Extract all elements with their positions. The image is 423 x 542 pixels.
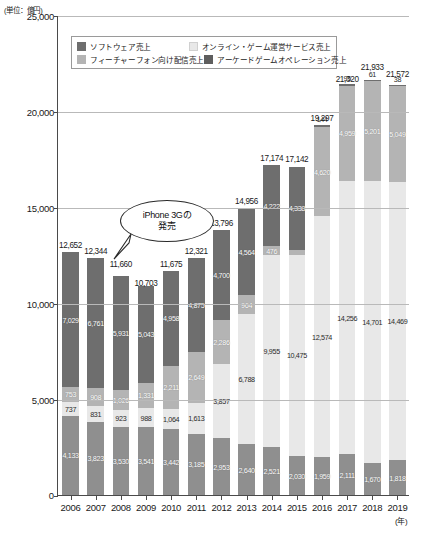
bar-segment-arcade[interactable] xyxy=(238,444,255,495)
y-gridline xyxy=(58,304,409,305)
legend-item-software: ソフトウェア売上 xyxy=(77,41,189,52)
bar-segment-software[interactable] xyxy=(188,258,205,352)
x-tick-mark xyxy=(96,495,97,500)
bar-segment-software[interactable] xyxy=(314,125,331,128)
bar-segment-online[interactable] xyxy=(87,406,104,422)
bar-segment-software[interactable] xyxy=(263,165,280,246)
bar-segment-feature[interactable] xyxy=(263,246,280,255)
bar-segment-feature[interactable] xyxy=(364,81,381,181)
bar-segment-feature[interactable] xyxy=(314,127,331,216)
bar-total-label: 12,652 xyxy=(59,241,82,250)
bar-total-label: 21,933 xyxy=(361,63,384,72)
bar-segment-online[interactable] xyxy=(289,255,306,456)
callout-tail-icon xyxy=(112,232,132,260)
bar-segment-feature[interactable] xyxy=(87,388,104,405)
bar-segment-feature[interactable] xyxy=(163,366,180,408)
bar-segment-feature[interactable] xyxy=(188,352,205,403)
bar-total-label: 10,703 xyxy=(135,279,158,288)
bar-segment-arcade[interactable] xyxy=(389,460,406,495)
y-gridline xyxy=(58,400,409,401)
x-tick-mark xyxy=(121,495,122,500)
bar-segment-arcade[interactable] xyxy=(339,454,356,495)
bar-segment-software[interactable] xyxy=(238,208,255,296)
bar-total-label: 19,297 xyxy=(311,114,334,123)
bar-segment-software[interactable] xyxy=(364,80,381,81)
bar-segment-arcade[interactable] xyxy=(188,434,205,495)
bar-column[interactable]: 1,81814,4695,04938 xyxy=(389,81,406,495)
callout-line-2: 発売 xyxy=(143,221,192,232)
bar-column[interactable]: 2,11114,2564,95995 xyxy=(339,86,356,495)
bar-segment-online[interactable] xyxy=(364,181,381,463)
x-tick-label-2008: 2008 xyxy=(111,502,131,513)
bar-segment-software[interactable] xyxy=(138,286,155,383)
bar-segment-arcade[interactable] xyxy=(62,416,79,495)
bar-segment-online[interactable] xyxy=(188,403,205,434)
bar-segment-arcade[interactable] xyxy=(213,438,230,495)
bar-segment-online[interactable] xyxy=(263,255,280,446)
y-tick-label: 10,000 xyxy=(27,299,54,310)
bar-segment-arcade[interactable] xyxy=(314,457,331,495)
bar-segment-online[interactable] xyxy=(113,410,130,428)
x-tick-mark xyxy=(247,495,248,500)
bar-segment-arcade[interactable] xyxy=(263,447,280,495)
bar-column[interactable]: 3,8238319086,761 xyxy=(87,258,104,495)
x-tick-mark xyxy=(71,495,72,500)
bar-segment-online[interactable] xyxy=(314,216,331,457)
bar-segment-arcade[interactable] xyxy=(289,456,306,495)
bar-segment-software[interactable] xyxy=(339,84,356,86)
x-tick-mark xyxy=(322,495,323,500)
bar-column[interactable]: 2,9533,8572,2864,700 xyxy=(213,230,230,495)
legend-swatch-icon xyxy=(189,42,198,51)
chart-root: (単位：億円) 4,1337377537,02912,6523,82383190… xyxy=(0,0,423,542)
bar-segment-software[interactable] xyxy=(62,252,79,387)
legend-label: オンライン・ゲーム運営サービス売上 xyxy=(202,41,331,52)
bar-total-label: 21,320 xyxy=(336,75,359,84)
bar-segment-arcade[interactable] xyxy=(163,429,180,495)
callout-bubble: iPhone 3Gの 発売 xyxy=(120,200,214,242)
bar-segment-feature[interactable] xyxy=(138,383,155,409)
bar-segment-online[interactable] xyxy=(163,409,180,429)
bar-column[interactable]: 2,6406,7889644,564 xyxy=(238,208,255,495)
bar-segment-arcade[interactable] xyxy=(138,427,155,495)
bar-segment-feature[interactable] xyxy=(289,250,306,255)
bar-column[interactable]: 2,5219,9554764,222 xyxy=(263,165,280,495)
bar-segment-online[interactable] xyxy=(138,408,155,427)
legend-swatch-icon xyxy=(77,55,86,64)
bar-column[interactable]: 1,67014,7015,20161 xyxy=(364,74,381,495)
x-tick-mark xyxy=(171,495,172,500)
x-axis-unit-label: (年) xyxy=(395,515,407,526)
bar-segment-feature[interactable] xyxy=(213,320,230,364)
bar-segment-arcade[interactable] xyxy=(113,427,130,495)
bar-segment-software[interactable] xyxy=(113,276,130,390)
bar-total-label: 17,174 xyxy=(260,154,283,163)
x-tick-label-2006: 2006 xyxy=(61,502,81,513)
bar-column[interactable]: 4,1337377537,029 xyxy=(62,252,79,495)
bar-segment-arcade[interactable] xyxy=(87,422,104,495)
y-tick-mark xyxy=(54,208,58,209)
legend-item-arcade: アーケードゲームオペレーション売上 xyxy=(204,54,346,65)
bar-total-label: 11,675 xyxy=(160,260,182,269)
bar-segment-online[interactable] xyxy=(339,181,356,455)
bar-column[interactable]: 3,5419881,3315,043 xyxy=(138,290,155,495)
bar-segment-feature[interactable] xyxy=(339,86,356,181)
bar-column[interactable]: 1,95912,5744,620144 xyxy=(314,125,331,496)
x-tick-mark xyxy=(347,495,348,500)
x-tick-mark xyxy=(397,495,398,500)
bar-segment-software[interactable] xyxy=(87,258,104,388)
bar-segment-arcade[interactable] xyxy=(364,463,381,495)
bar-segment-software[interactable] xyxy=(163,271,180,366)
bar-column[interactable]: 3,1851,6132,6494,875 xyxy=(188,258,205,495)
bar-segment-feature[interactable] xyxy=(389,85,406,182)
legend-label: アーケードゲームオペレーション売上 xyxy=(217,54,346,65)
bar-segment-online[interactable] xyxy=(213,364,230,438)
bar-segment-online[interactable] xyxy=(62,402,79,416)
x-tick-label-2013: 2013 xyxy=(237,502,257,513)
bar-column[interactable]: 2,03010,4752494,338 xyxy=(289,166,306,495)
legend-swatch-icon xyxy=(204,55,213,64)
bar-total-label: 11,660 xyxy=(110,260,132,269)
bar-segment-online[interactable] xyxy=(238,314,255,444)
bar-segment-software[interactable] xyxy=(389,85,406,86)
bar-segment-software[interactable] xyxy=(213,230,230,320)
y-tick-label: 5,000 xyxy=(32,395,54,406)
bar-segment-online[interactable] xyxy=(389,182,406,460)
